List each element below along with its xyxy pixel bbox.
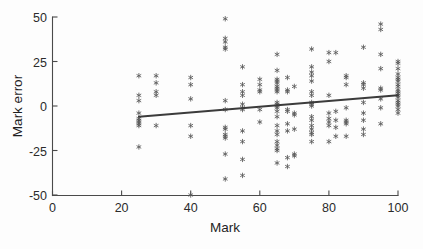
data-point: [189, 134, 193, 139]
data-point: [310, 132, 314, 137]
data-point: [154, 93, 158, 98]
data-point: [223, 177, 227, 182]
data-point: [361, 100, 365, 105]
data-point: [285, 129, 289, 134]
data-point: [292, 113, 296, 118]
data-point: [241, 93, 245, 98]
data-point: [275, 148, 279, 153]
data-point: [334, 118, 338, 123]
data-point: [275, 52, 279, 57]
x-axis-label: Mark: [210, 220, 240, 235]
data-point: [361, 118, 365, 123]
data-point: [137, 73, 141, 78]
x-ticklabel-5: 100: [388, 201, 409, 215]
y-ticklabel-4: 50: [33, 11, 47, 25]
x-ticklabel-3: 60: [253, 201, 267, 215]
data-point: [310, 139, 314, 144]
y-axis-label: Mark error: [10, 74, 25, 137]
x-axis-tick-labels: 0 20 40 60 80 100: [49, 201, 408, 215]
data-point: [334, 125, 338, 130]
data-point: [189, 123, 193, 128]
data-point: [379, 52, 383, 57]
data-point: [275, 132, 279, 137]
x-ticklabel-0: 0: [49, 201, 56, 215]
data-point: [285, 122, 289, 127]
data-point: [275, 161, 279, 166]
data-point: [137, 123, 141, 128]
data-point: [292, 84, 296, 89]
data-point: [189, 97, 193, 102]
data-point: [241, 139, 245, 144]
scatter-plot: 50 25 0 -25 -50 0 20 40 60 80 100 Mark M…: [0, 0, 423, 249]
data-point: [361, 86, 365, 91]
data-point: [154, 123, 158, 128]
data-point: [310, 93, 314, 98]
data-point: [361, 127, 365, 132]
data-point: [285, 89, 289, 94]
data-point: [137, 111, 141, 116]
data-point: [275, 68, 279, 73]
data-point: [275, 123, 279, 128]
data-point: [292, 152, 296, 157]
data-point: [379, 22, 383, 27]
data-point: [310, 104, 314, 109]
data-point: [379, 27, 383, 32]
data-point: [223, 40, 227, 45]
x-ticklabel-2: 40: [184, 201, 198, 215]
data-point: [310, 118, 314, 123]
data-point: [344, 134, 348, 139]
data-point: [137, 145, 141, 150]
data-point: [275, 109, 279, 114]
data-point: [361, 45, 365, 50]
data-point: [396, 61, 400, 66]
data-point: [137, 98, 141, 103]
data-point: [285, 109, 289, 114]
data-point: [275, 114, 279, 119]
data-point: [292, 127, 296, 132]
data-point: [258, 107, 262, 112]
data-point: [154, 81, 158, 86]
data-point: [334, 109, 338, 114]
data-point: [379, 105, 383, 110]
data-point: [258, 77, 262, 82]
y-ticklabel-3: 25: [33, 56, 47, 70]
y-ticklabel-0: -50: [29, 189, 47, 203]
x-ticklabel-4: 80: [322, 201, 336, 215]
data-point: [344, 122, 348, 127]
data-point: [241, 129, 245, 134]
y-axis-tick-labels: 50 25 0 -25 -50: [29, 11, 47, 203]
data-point: [189, 82, 193, 87]
data-point: [327, 139, 331, 144]
data-point: [327, 123, 331, 128]
data-point: [154, 73, 158, 78]
data-point: [189, 75, 193, 80]
data-point: [285, 164, 289, 169]
data-point: [310, 73, 314, 78]
data-point: [275, 89, 279, 94]
data-point: [327, 59, 331, 64]
data-point: [327, 111, 331, 116]
x-ticklabel-1: 20: [115, 201, 129, 215]
data-point: [310, 79, 314, 84]
data-point: [258, 89, 262, 94]
y-axis-ticks: [53, 17, 58, 195]
data-point: [396, 111, 400, 116]
data-point: [241, 82, 245, 87]
data-point: [223, 16, 227, 21]
data-point: [379, 88, 383, 93]
data-point: [258, 120, 262, 125]
data-point: [379, 66, 383, 71]
data-point: [223, 47, 227, 52]
data-point: [310, 65, 314, 70]
data-point: [241, 157, 245, 162]
data-point: [334, 50, 338, 55]
data-point: [223, 127, 227, 132]
data-point: [137, 93, 141, 98]
data-point: [327, 50, 331, 55]
data-point: [285, 75, 289, 80]
fit-line: [139, 95, 398, 116]
data-point: [396, 66, 400, 71]
data-point: [344, 82, 348, 87]
figure-canvas: 50 25 0 -25 -50 0 20 40 60 80 100 Mark M…: [0, 0, 423, 249]
data-point: [379, 122, 383, 127]
